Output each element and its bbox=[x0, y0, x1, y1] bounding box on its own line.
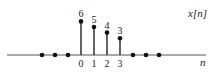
stem-plot: 6543 0123 x[n] n bbox=[0, 0, 219, 75]
tick-labels-group: 0123 bbox=[79, 58, 123, 69]
sample-dot bbox=[79, 19, 84, 24]
sample-dot bbox=[92, 25, 97, 30]
sample-dot bbox=[53, 53, 58, 58]
stems-group: 6543 bbox=[40, 8, 162, 57]
x-tick-label: 1 bbox=[92, 58, 97, 69]
sample-dot bbox=[66, 53, 71, 58]
sample-dot bbox=[40, 53, 45, 58]
sample-dot bbox=[118, 36, 123, 41]
x-axis-label: n bbox=[200, 56, 206, 68]
value-label: 4 bbox=[105, 20, 110, 31]
sample-dot bbox=[131, 53, 136, 58]
sample-dot bbox=[144, 53, 149, 58]
x-tick-label: 0 bbox=[79, 58, 84, 69]
x-tick-label: 2 bbox=[105, 58, 110, 69]
sample-dot bbox=[157, 53, 162, 58]
value-label: 3 bbox=[118, 25, 123, 36]
sample-dot bbox=[105, 30, 110, 35]
value-label: 6 bbox=[79, 8, 84, 19]
x-tick-label: 3 bbox=[118, 58, 123, 69]
value-label: 5 bbox=[92, 14, 97, 25]
signal-label: x[n] bbox=[187, 7, 207, 19]
